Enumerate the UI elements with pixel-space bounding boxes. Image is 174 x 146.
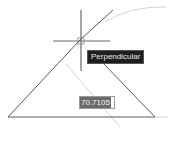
dynamic-input-value: 70.7105 xyxy=(80,97,111,108)
drawing-canvas[interactable] xyxy=(0,0,174,146)
snap-tooltip: Perpendicular xyxy=(87,50,144,64)
extension-line[interactable] xyxy=(80,10,113,40)
triangle-left-edge[interactable] xyxy=(8,40,80,117)
dynamic-length-input[interactable]: 70.7105 xyxy=(79,96,115,109)
construction-arc xyxy=(105,7,166,22)
